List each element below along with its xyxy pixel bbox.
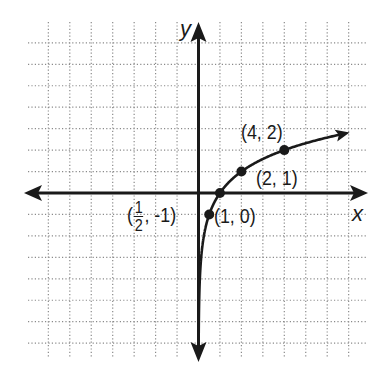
data-point xyxy=(279,145,289,155)
label-open-paren: ( xyxy=(127,203,133,226)
point-label-half-neg1: (12, -1) xyxy=(127,199,176,234)
axes xyxy=(24,22,368,362)
data-point xyxy=(204,209,214,219)
point-label-4-2: (4, 2) xyxy=(241,121,283,142)
fraction-one-half: 12 xyxy=(134,199,144,234)
fraction-denominator: 2 xyxy=(134,217,144,234)
label-rest: , -1) xyxy=(144,203,176,226)
point-label-2-1: (2, 1) xyxy=(256,167,298,188)
data-point xyxy=(215,188,225,198)
fraction-numerator: 1 xyxy=(134,199,144,217)
data-point xyxy=(236,167,246,177)
point-label-1-0: (1, 0) xyxy=(214,205,256,226)
x-axis-label: x xyxy=(352,203,363,225)
y-axis-label: y xyxy=(180,18,191,40)
coordinate-plane xyxy=(0,0,381,382)
